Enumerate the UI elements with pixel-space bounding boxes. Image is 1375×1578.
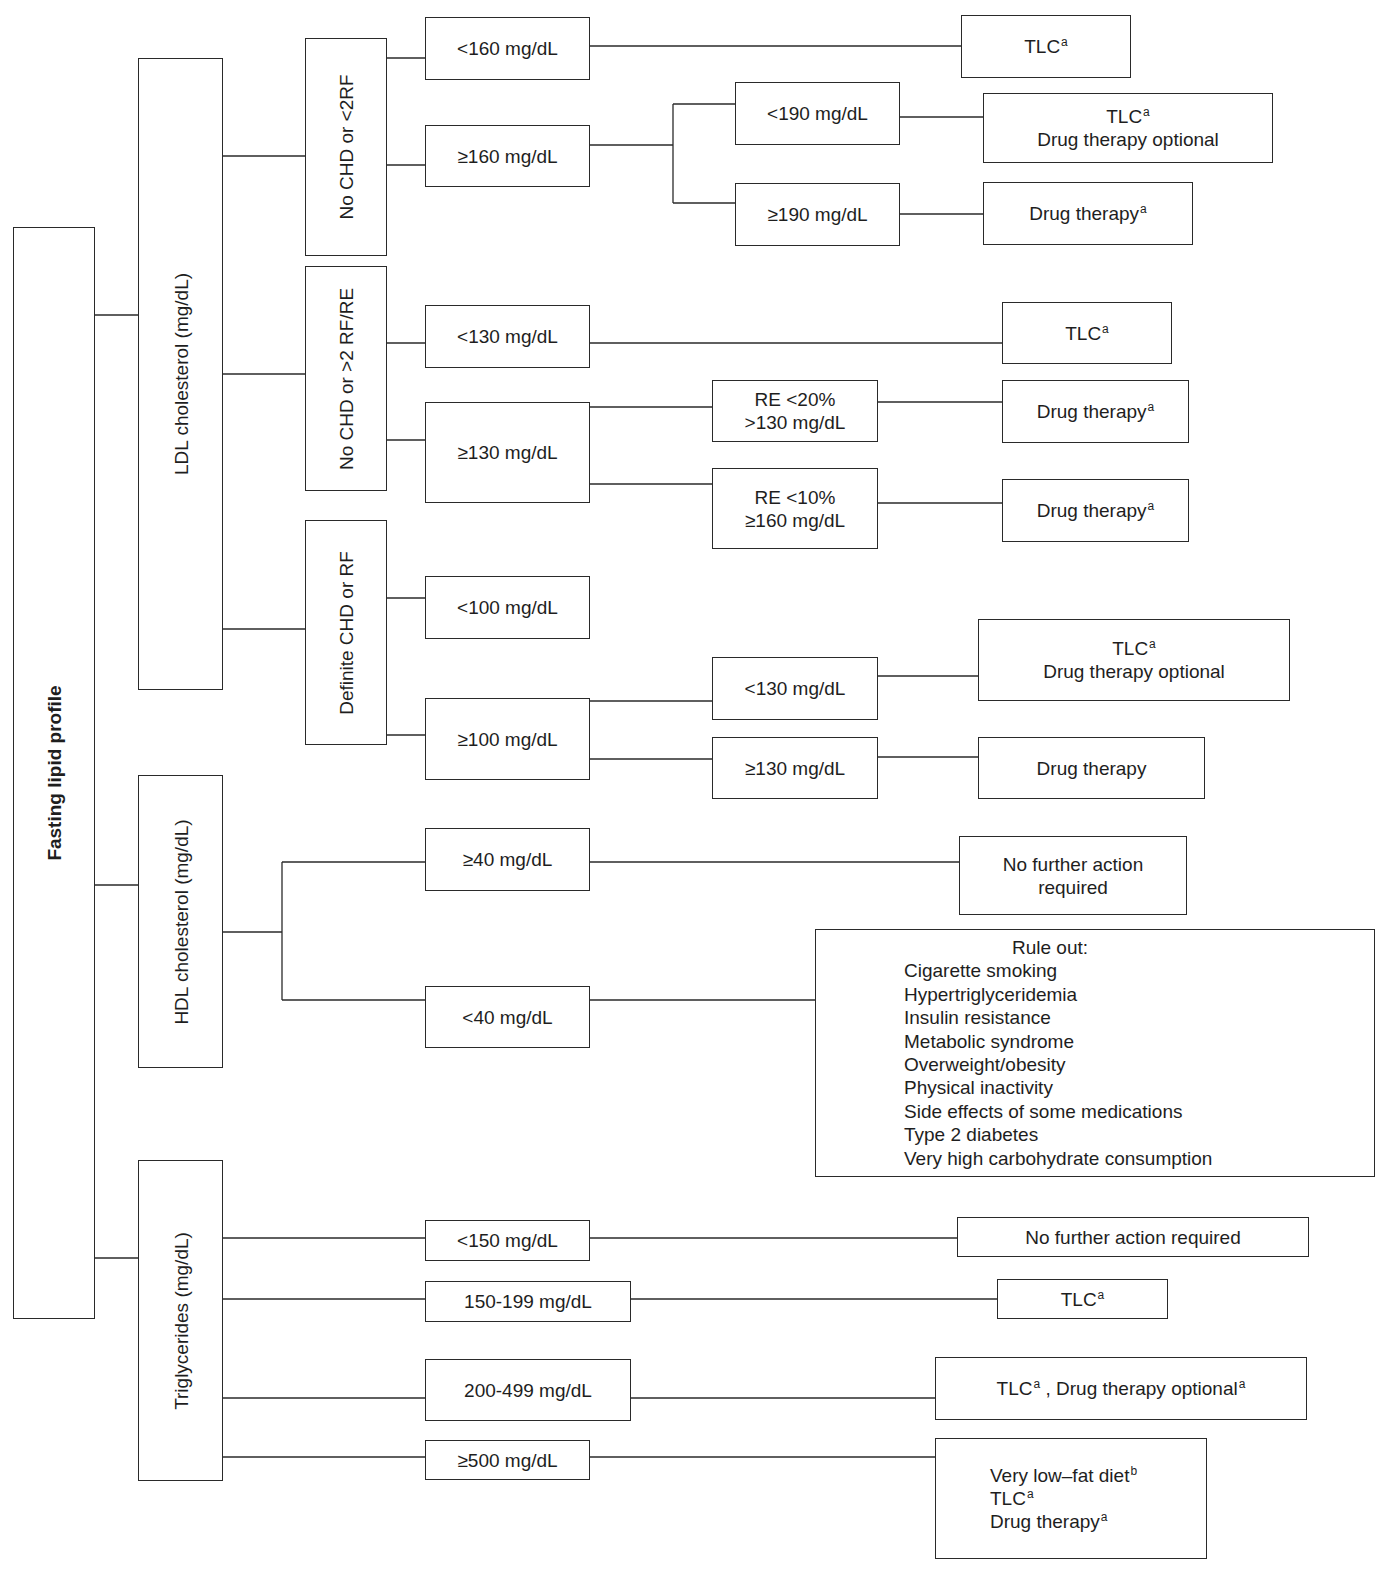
threshold-node: <190 mg/dL [735,82,900,145]
outcome-node: TLCa Drug therapy optional [978,619,1290,701]
outcome-text: Drug therapy optional [1043,660,1225,683]
threshold-label: <100 mg/dL [457,596,558,619]
category-triglycerides: Triglycerides (mg/dL) [138,1160,223,1481]
threshold-label: ≥160 mg/dL [745,509,845,532]
ldl-group-no-chd-lt2rf: No CHD or <2RF [305,38,387,256]
outcome-text: Drug therapy [1037,757,1147,780]
category-ldl-label: LDL cholesterol (mg/dL) [169,273,192,475]
rule-out-item: Insulin resistance [904,1006,1051,1029]
outcome-text: TLCa [990,1487,1034,1510]
threshold-label: <130 mg/dL [745,677,846,700]
outcome-text: required [1038,876,1108,899]
rule-out-title: Rule out: [1012,936,1088,959]
rule-out-item: Physical inactivity [904,1076,1053,1099]
threshold-label: RE <10% [755,486,836,509]
outcome-text: TLCa [1106,105,1150,128]
outcome-text: Very low–fat dietb [990,1464,1137,1487]
outcome-node: Drug therapy [978,737,1205,799]
threshold-node: ≥160 mg/dL [425,125,590,187]
outcome-text: Drug therapya [1029,202,1147,225]
threshold-label: ≥100 mg/dL [457,728,557,751]
group-label: Definite CHD or RF [335,551,358,715]
rule-out-item: Cigarette smoking [904,959,1057,982]
threshold-label: <160 mg/dL [457,37,558,60]
threshold-label: >130 mg/dL [745,411,846,434]
outcome-text: Drug therapya [1037,400,1155,423]
outcome-node: Drug therapya [1002,380,1189,443]
outcome-node: TLCa , Drug therapy optionala [935,1357,1307,1420]
rule-out-item: Type 2 diabetes [904,1123,1038,1146]
outcome-node: Drug therapya [983,182,1193,245]
rule-out-item: Side effects of some medications [904,1100,1182,1123]
threshold-label: ≥40 mg/dL [463,848,553,871]
threshold-node: RE <20% >130 mg/dL [712,380,878,442]
outcome-node: TLCa Drug therapy optional [983,93,1273,163]
threshold-node: ≥130 mg/dL [425,402,590,503]
threshold-node: ≥40 mg/dL [425,828,590,891]
threshold-node: <100 mg/dL [425,576,590,639]
category-tg-label: Triglycerides (mg/dL) [169,1232,192,1410]
threshold-node: <130 mg/dL [712,657,878,720]
outcome-text: TLCa , Drug therapy optionala [997,1377,1246,1400]
rule-out-item: Hypertriglyceridemia [904,983,1077,1006]
rule-out-item: Very high carbohydrate consumption [904,1147,1212,1170]
threshold-node: <40 mg/dL [425,986,590,1048]
group-label: No CHD or <2RF [335,74,358,219]
rule-out-item: Overweight/obesity [904,1053,1066,1076]
rule-out-box: Rule out: Cigarette smoking Hypertriglyc… [815,929,1375,1177]
outcome-text: TLCa [1112,637,1156,660]
threshold-label: ≥130 mg/dL [457,441,557,464]
threshold-node: 200-499 mg/dL [425,1359,631,1421]
category-hdl-label: HDL cholesterol (mg/dL) [169,819,192,1024]
threshold-label: ≥160 mg/dL [457,145,557,168]
threshold-node: ≥130 mg/dL [712,737,878,799]
threshold-label: ≥190 mg/dL [767,203,867,226]
outcome-node: No further action required [957,1217,1309,1257]
root-label: Fasting lipid profile [43,685,66,860]
category-hdl: HDL cholesterol (mg/dL) [138,775,223,1068]
root-node-fasting-lipid-profile: Fasting lipid profile [13,227,95,1319]
threshold-node: ≥500 mg/dL [425,1440,590,1480]
threshold-label: 200-499 mg/dL [464,1379,592,1402]
outcome-node: TLCa [961,15,1131,78]
outcome-text: No further action [1003,853,1143,876]
outcome-text: No further action required [1025,1226,1240,1249]
threshold-label: <190 mg/dL [767,102,868,125]
threshold-label: ≥500 mg/dL [457,1449,557,1472]
ldl-group-definite-chd: Definite CHD or RF [305,520,387,745]
threshold-label: <150 mg/dL [457,1229,558,1252]
threshold-node: RE <10% ≥160 mg/dL [712,468,878,549]
outcome-text: Drug therapy optional [1037,128,1219,151]
threshold-node: ≥100 mg/dL [425,698,590,780]
threshold-label: <40 mg/dL [462,1006,552,1029]
threshold-node: 150-199 mg/dL [425,1281,631,1322]
outcome-text: Drug therapya [1037,499,1155,522]
threshold-label: 150-199 mg/dL [464,1290,592,1313]
rule-out-item: Metabolic syndrome [904,1030,1074,1053]
threshold-label: RE <20% [755,388,836,411]
threshold-node: <150 mg/dL [425,1220,590,1261]
outcome-text: TLCa [1061,1288,1105,1311]
outcome-node: TLCa [1002,302,1172,364]
group-label: No CHD or >2 RF/RE [335,287,358,469]
threshold-node: <130 mg/dL [425,305,590,368]
outcome-node: No further action required [959,836,1187,915]
ldl-group-no-chd-gt2rf: No CHD or >2 RF/RE [305,266,387,491]
threshold-node: <160 mg/dL [425,17,590,80]
outcome-node: Very low–fat dietb TLCa Drug therapya [935,1438,1207,1559]
outcome-text: TLCa [1024,35,1068,58]
threshold-node: ≥190 mg/dL [735,183,900,246]
outcome-text: TLCa [1065,322,1109,345]
outcome-text: Drug therapya [990,1510,1108,1533]
outcome-node: TLCa [997,1279,1168,1319]
outcome-node: Drug therapya [1002,479,1189,542]
threshold-label: <130 mg/dL [457,325,558,348]
category-ldl: LDL cholesterol (mg/dL) [138,58,223,690]
threshold-label: ≥130 mg/dL [745,757,845,780]
